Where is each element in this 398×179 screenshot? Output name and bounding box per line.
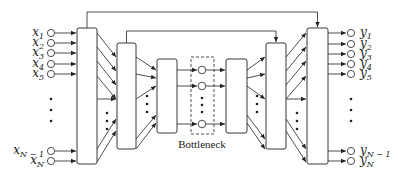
output-node [347,29,354,36]
output-node [347,60,354,67]
output-node [347,70,354,77]
bottleneck-label: Bottleneck [178,138,226,150]
ellipsis-dot [256,111,259,114]
layer-block-decoder-3 [307,28,328,164]
ellipsis-dot [256,95,259,98]
input-node [47,49,54,56]
layer-block-decoder-1 [226,59,247,133]
skip-connections [87,12,318,43]
input-node [47,70,54,77]
bottleneck-node [198,66,206,74]
connection-arrow [97,33,116,57]
ellipsis-dot [146,95,149,98]
ellipsis-dot [106,120,109,123]
connection-arrow [286,119,306,149]
layer-block-decoder-2 [266,43,286,149]
input-node [47,29,54,36]
layer-block-encoder-2 [117,43,136,149]
skip-connection [127,31,277,43]
input-node [47,157,54,164]
ellipsis-dot [106,112,109,115]
ellipsis-dot [296,120,299,123]
connection-arrow [247,74,265,78]
connection-arrow [286,61,306,85]
connection-arrow [286,33,306,57]
ellipsis-dot [201,111,204,114]
connection-arrow [136,86,156,99]
connection-arrow [136,74,156,78]
ellipsis-dot [146,103,149,106]
connection-arrow [286,76,306,99]
ellipsis-dot [350,120,353,123]
connection-arrow [247,86,265,99]
layer-block-encoder-3 [157,59,177,133]
input-label: xN − 1 [13,143,44,159]
skip-connection [87,12,318,28]
input-node [47,147,54,154]
bottleneck-node [198,82,206,90]
connection-arrow [97,47,116,71]
output-node [347,50,354,57]
connection-arrow [247,57,265,70]
ellipsis-dot [350,98,353,101]
ellipsis-dot [146,111,149,114]
connection-arrow [97,119,116,149]
connection-arrow [286,47,306,71]
input-node [47,39,54,46]
ellipsis-dot [350,109,353,112]
ellipsis-dot [201,104,204,107]
output-node [347,157,354,164]
connection-arrow [136,57,156,70]
bottleneck-group [191,57,214,134]
connection-arrow [97,61,116,85]
connection-arrow [97,131,116,162]
output-node [347,147,354,154]
bottleneck-node [198,120,206,128]
ellipsis-dot [50,98,53,101]
connection-arrow [286,131,306,162]
ellipsis-dot [296,112,299,115]
ellipsis-dot [50,109,53,112]
input-node [47,60,54,67]
ellipsis-dot [201,97,204,100]
ellipsis-dot [296,128,299,131]
autoencoder-diagram: x1x2x3x4x5xN − 1xNy1y2y3y4y5yN − 1yN Bot… [0,0,398,179]
layer-block-encoder-1 [77,28,97,164]
ellipsis-dot [50,120,53,123]
connection-arrow [97,76,116,99]
output-node [347,40,354,47]
ellipsis-dot [106,128,109,131]
ellipsis-dot [256,103,259,106]
